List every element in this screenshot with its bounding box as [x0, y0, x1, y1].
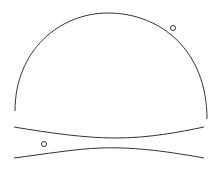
lower-channel-line	[14, 148, 204, 158]
upper-channel-line	[14, 127, 204, 138]
dome-particle-icon	[171, 26, 176, 31]
dome-arc	[15, 13, 207, 119]
diagram-canvas	[0, 0, 221, 173]
channel-particle-icon	[42, 142, 47, 147]
